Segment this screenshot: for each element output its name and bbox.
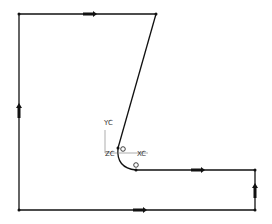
sketch-canvas: YC XC ZC <box>0 0 272 224</box>
yc-label: YC <box>103 119 113 127</box>
arc-end-marker-icon <box>134 163 139 168</box>
direction-arrows <box>16 11 258 213</box>
arc-start-marker-icon <box>121 147 126 152</box>
zc-label: ZC <box>105 150 115 158</box>
arrow-up-icon <box>16 103 22 118</box>
vertex-points <box>18 13 257 212</box>
xc-label: XC <box>137 150 146 158</box>
coordinate-system: YC XC ZC <box>103 119 148 158</box>
arrow-right-icon <box>191 167 205 173</box>
profile <box>19 14 255 210</box>
edge-fillet-arc[interactable] <box>118 148 136 170</box>
arrow-right-icon <box>83 11 97 17</box>
arrow-up-icon <box>252 183 258 198</box>
arc-markers <box>121 147 139 168</box>
edge-slant[interactable] <box>118 14 156 148</box>
arrow-right-icon <box>133 207 147 213</box>
